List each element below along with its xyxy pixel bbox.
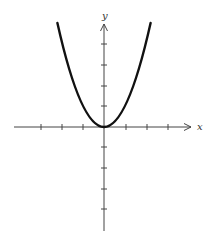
parabola-graph: x y (0, 0, 216, 238)
y-axis-label: y (101, 10, 108, 21)
y-axis: y (101, 10, 109, 231)
x-axis-label: x (197, 121, 203, 132)
